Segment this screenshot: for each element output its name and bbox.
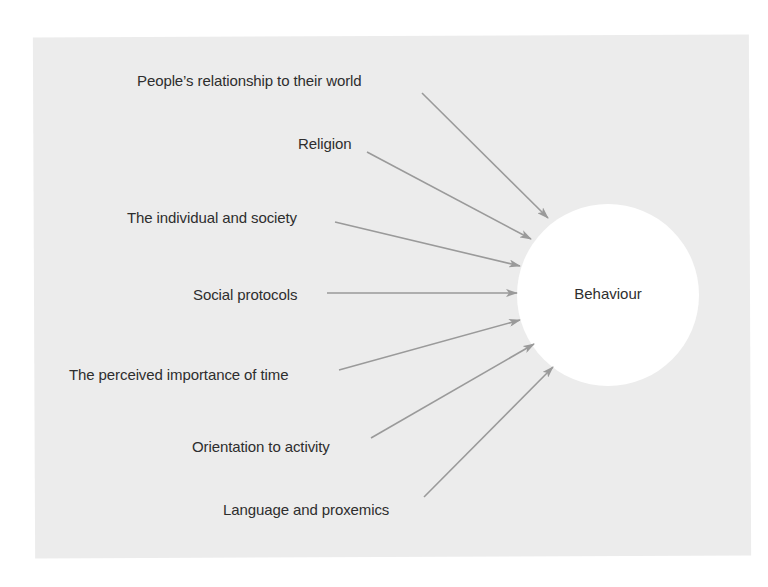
factor-label: The perceived importance of time bbox=[69, 366, 288, 384]
arrow-line bbox=[424, 367, 553, 497]
factor-label: Orientation to activity bbox=[192, 438, 330, 456]
arrow-line bbox=[422, 93, 548, 218]
arrow-line bbox=[367, 152, 531, 239]
factor-label: Social protocols bbox=[193, 286, 297, 304]
arrow-line bbox=[339, 320, 520, 370]
factor-label: Language and proxemics bbox=[223, 501, 389, 519]
factor-label: The individual and society bbox=[127, 209, 297, 227]
arrow-line bbox=[335, 222, 520, 266]
factor-label: People’s relationship to their world bbox=[137, 72, 362, 90]
factor-label: Religion bbox=[298, 135, 351, 153]
behaviour-label: Behaviour bbox=[574, 285, 642, 303]
diagram-canvas bbox=[0, 0, 768, 587]
arrow-line bbox=[371, 344, 534, 438]
